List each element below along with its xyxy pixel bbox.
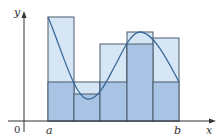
x-axis-arrow-icon: [209, 119, 216, 124]
riemann-sum-figure: y x 0 a b: [0, 0, 223, 137]
lower-rect-1: [48, 82, 74, 121]
y-axis-label: y: [13, 6, 21, 19]
b-label: b: [174, 124, 181, 137]
lower-rect-3: [100, 82, 127, 121]
a-label: a: [46, 124, 53, 137]
origin-label: 0: [14, 124, 20, 135]
x-axis-label: x: [206, 124, 213, 137]
lower-rect-2: [74, 94, 100, 121]
y-axis-arrow-icon: [22, 11, 27, 18]
lower-rect-4: [127, 44, 153, 121]
lower-rect-5: [153, 82, 179, 121]
